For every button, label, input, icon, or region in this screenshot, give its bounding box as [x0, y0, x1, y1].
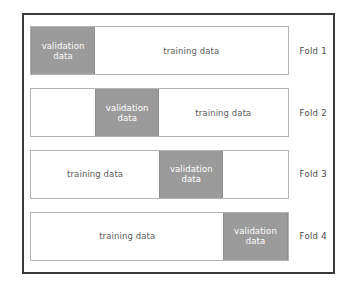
- validation-segment: validationdata: [31, 27, 95, 74]
- fold-row: training data validationdata Fold 4: [30, 212, 327, 261]
- training-segment-label: training data: [163, 46, 219, 56]
- cross-validation-diagram: validationdata training data Fold 1 vali…: [22, 13, 335, 274]
- fold-label: Fold 4: [289, 231, 327, 241]
- empty-segment: [31, 89, 95, 136]
- validation-segment-label: validationdata: [42, 41, 85, 61]
- training-segment: training data: [159, 89, 287, 136]
- fold-bar: validationdata training data: [30, 88, 289, 137]
- validation-segment: validationdata: [95, 89, 159, 136]
- fold-bar: training data validationdata: [30, 150, 289, 199]
- fold-list: validationdata training data Fold 1 vali…: [24, 15, 333, 272]
- fold-row: validationdata training data Fold 1: [30, 26, 327, 75]
- fold-row: validationdata training data Fold 2: [30, 88, 327, 137]
- validation-segment-label: validationdata: [106, 103, 149, 123]
- training-segment: training data: [31, 213, 223, 260]
- fold-row: training data validationdata Fold 3: [30, 150, 327, 199]
- training-segment-label: training data: [67, 169, 123, 179]
- training-segment-label: training data: [195, 108, 251, 118]
- fold-label: Fold 3: [289, 169, 327, 179]
- validation-segment-label: validationdata: [234, 226, 277, 246]
- fold-bar: validationdata training data: [30, 26, 289, 75]
- validation-segment: validationdata: [223, 213, 287, 260]
- fold-label: Fold 2: [289, 108, 327, 118]
- fold-label: Fold 1: [289, 46, 327, 56]
- training-segment: training data: [31, 151, 159, 198]
- validation-segment-label: validationdata: [170, 164, 213, 184]
- fold-bar: training data validationdata: [30, 212, 289, 261]
- training-segment-label: training data: [99, 231, 155, 241]
- training-segment: training data: [95, 27, 287, 74]
- validation-segment: validationdata: [159, 151, 223, 198]
- empty-segment: [223, 151, 287, 198]
